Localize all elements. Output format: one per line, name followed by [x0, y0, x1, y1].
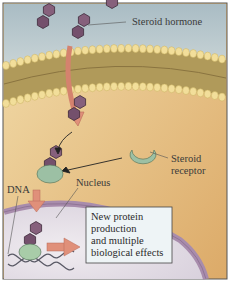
lipid-head: [31, 54, 38, 62]
steroid-receptor-bound: [37, 165, 63, 183]
lipid-head: [219, 55, 226, 63]
lipid-head: [154, 83, 161, 91]
lipid-head: [190, 88, 197, 96]
lipid-head: [125, 44, 132, 52]
lipid-head: [118, 44, 125, 52]
lipid-head: [190, 50, 197, 58]
effect-box: New protein production and multiple biol…: [86, 207, 172, 263]
lipid-head: [132, 82, 139, 90]
lipid-head: [183, 87, 190, 95]
lipid-head: [75, 47, 82, 55]
hormone-ring: [72, 26, 83, 39]
lipid-head: [139, 83, 146, 91]
lipid-head: [197, 51, 204, 59]
lipid-head: [183, 49, 190, 57]
effect-line-2: production: [91, 223, 137, 234]
lipid-head: [17, 58, 24, 66]
lipid-head: [82, 46, 89, 54]
lipid-head: [211, 54, 218, 62]
effect-line-3: and multiple: [91, 235, 144, 246]
lipid-head: [39, 91, 46, 99]
lipid-head: [204, 52, 211, 60]
lipid-head: [31, 92, 38, 100]
lipid-head: [10, 59, 17, 67]
label-dna: DNA: [7, 184, 30, 195]
lipid-head: [147, 45, 154, 53]
lipid-head: [103, 83, 110, 91]
lipid-head: [39, 53, 46, 61]
lipid-head: [3, 99, 10, 107]
lipid-head: [89, 46, 96, 54]
hormone-ring: [30, 222, 41, 235]
hormone-ring: [68, 108, 79, 121]
lipid-head: [161, 84, 168, 92]
label-steroid-hormone: Steroid hormone: [132, 16, 203, 27]
lipid-head: [118, 82, 125, 90]
lipid-head: [60, 49, 67, 57]
lipid-head: [204, 90, 211, 98]
lipid-head: [197, 89, 204, 97]
lipid-head: [24, 94, 31, 102]
lipid-head: [111, 45, 118, 53]
lipid-head: [96, 83, 103, 91]
lipid-head: [17, 96, 24, 104]
lipid-head: [46, 51, 53, 59]
lipid-head: [147, 83, 154, 91]
lipid-head: [60, 87, 67, 95]
hormone-ring: [37, 16, 48, 29]
lipid-head: [175, 48, 182, 56]
effect-line-1: New protein: [91, 211, 144, 222]
lipid-head: [168, 47, 175, 55]
lipid-head: [175, 86, 182, 94]
lipid-head: [53, 88, 60, 96]
lipid-head: [111, 83, 118, 91]
lipid-head: [103, 45, 110, 53]
lipid-head: [211, 92, 218, 100]
lipid-head: [3, 61, 10, 69]
hormone-ring: [78, 14, 89, 27]
lipid-head: [154, 45, 161, 53]
effect-line-4: biological effects: [91, 247, 163, 258]
lipid-head: [96, 45, 103, 53]
label-nucleus: Nucleus: [76, 177, 110, 188]
hormone-ring: [74, 96, 85, 109]
label-steroid-receptor-1: Steroid: [171, 153, 202, 164]
lipid-head: [75, 85, 82, 93]
lipid-head: [132, 44, 139, 52]
lipid-head: [139, 45, 146, 53]
lipid-head: [89, 84, 96, 92]
lipid-head: [125, 82, 132, 90]
steroid-signaling-diagram: New protein production and multiple biol…: [0, 0, 230, 282]
label-steroid-receptor-2: receptor: [171, 165, 206, 176]
lipid-head: [10, 97, 17, 105]
lipid-head: [24, 56, 31, 64]
hormone-ring: [50, 146, 61, 159]
lipid-head: [53, 50, 60, 58]
lipid-head: [46, 89, 53, 97]
hormone-ring: [43, 4, 54, 17]
lipid-head: [82, 84, 89, 92]
steroid-receptor-nuclear: [19, 244, 41, 260]
lipid-head: [168, 85, 175, 93]
lipid-head: [161, 46, 168, 54]
lipid-head: [219, 93, 226, 101]
